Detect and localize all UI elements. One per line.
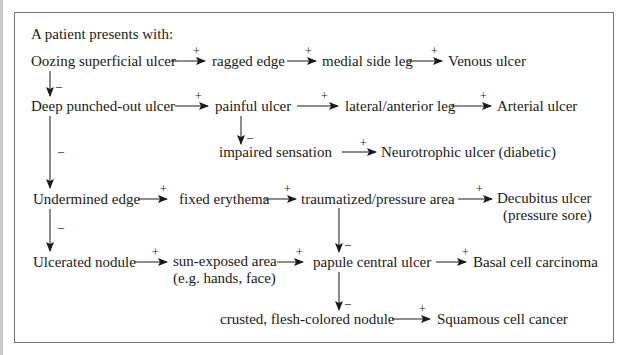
node-venous-ulcer: Venous ulcer <box>448 53 526 69</box>
node-crusted-flesh-colored-nodule: crusted, flesh-colored nodule <box>220 311 395 327</box>
plus-sign: + <box>419 303 426 315</box>
minus-sign: – <box>247 131 253 143</box>
plus-sign: + <box>305 45 312 57</box>
node-lateral-anterior-leg: lateral/anterior leg <box>345 98 455 114</box>
node-medial-side-leg: medial side leg <box>322 53 413 69</box>
node-papule-central-ulcer: papule central ulcer <box>313 254 431 270</box>
plus-sign: + <box>360 137 367 149</box>
node-ragged-edge: ragged edge <box>212 53 285 69</box>
plus-sign: + <box>480 90 487 102</box>
node-traumatized-pressure-area: traumatized/pressure area <box>301 191 455 207</box>
node-deep-punched-out-ulcer: Deep punched-out ulcer <box>31 98 175 114</box>
minus-sign: – <box>58 221 64 233</box>
node-basal-cell-carcinoma: Basal cell carcinoma <box>473 254 598 270</box>
plus-sign: + <box>152 246 159 258</box>
plus-sign: + <box>160 183 167 195</box>
node-ulcerated-nodule: Ulcerated nodule <box>33 254 136 270</box>
node-painful-ulcer: painful ulcer <box>215 98 291 114</box>
node-decubitus-ulcer: Decubitus ulcer (pressure sore) <box>497 190 592 224</box>
node-neurotrophic-ulcer: Neurotrophic ulcer (diabetic) <box>381 144 556 160</box>
minus-sign: – <box>56 80 62 92</box>
node-oozing-superficial-ulcer: Oozing superficial ulcer <box>31 53 176 69</box>
plus-sign: + <box>462 246 469 258</box>
node-arterial-ulcer: Arterial ulcer <box>497 98 577 114</box>
node-undermined-edge: Undermined edge <box>33 191 140 207</box>
plus-sign: + <box>284 183 291 195</box>
minus-sign: – <box>58 145 64 157</box>
node-squamous-cell-cancer: Squamous cell cancer <box>437 311 568 327</box>
minus-sign: – <box>345 297 351 309</box>
plus-sign: + <box>476 183 483 195</box>
plus-sign: + <box>193 45 200 57</box>
plus-sign: + <box>195 90 202 102</box>
minus-sign: – <box>345 238 351 250</box>
plus-sign: + <box>296 246 303 258</box>
node-sun-line2: (e.g. hands, face) <box>173 270 277 287</box>
plus-sign: + <box>321 90 328 102</box>
node-fixed-erythema: fixed erythema <box>179 191 269 207</box>
node-decubitus-line1: Decubitus ulcer <box>497 190 592 207</box>
node-decubitus-line2: (pressure sore) <box>497 207 592 224</box>
node-impaired-sensation: impaired sensation <box>219 144 332 160</box>
node-sun-exposed-area: sun-exposed area (e.g. hands, face) <box>173 253 277 287</box>
plus-sign: + <box>431 45 438 57</box>
node-sun-line1: sun-exposed area <box>173 253 277 270</box>
diagram-title: A patient presents with: <box>31 26 173 42</box>
